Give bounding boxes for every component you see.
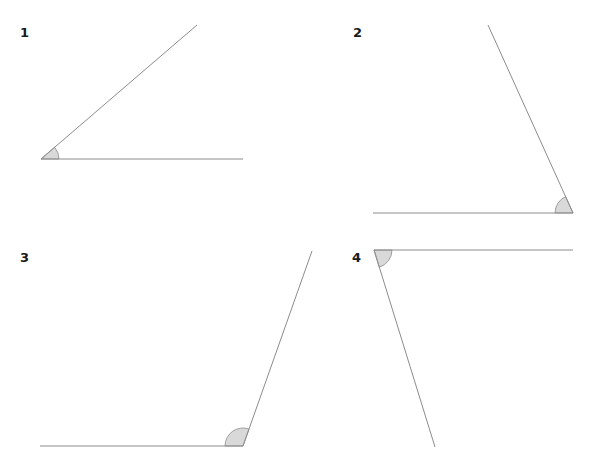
angle-2: 2 <box>353 25 573 213</box>
ray-slanted-4 <box>374 250 435 447</box>
angle-1: 1 <box>20 25 243 159</box>
angles-diagram: 1 2 3 4 <box>0 0 593 466</box>
angle-arc-2 <box>555 197 573 213</box>
angle-label-4: 4 <box>352 250 361 265</box>
angle-label-1: 1 <box>20 25 29 40</box>
angle-4: 4 <box>352 250 573 447</box>
angle-label-2: 2 <box>353 25 362 40</box>
ray-slanted-3 <box>243 251 312 446</box>
ray-slanted-1 <box>41 25 197 159</box>
ray-slanted-2 <box>488 25 573 213</box>
angle-3: 3 <box>20 250 312 446</box>
angle-arc-3 <box>225 428 249 446</box>
angle-label-3: 3 <box>20 250 29 265</box>
